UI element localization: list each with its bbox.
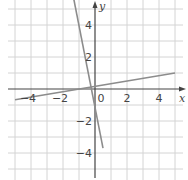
y-axis-arrow-icon	[93, 1, 98, 8]
y-axis-label: y	[98, 0, 106, 13]
x-tick-label: −4	[20, 92, 36, 105]
x-tick-label: 0	[98, 92, 105, 105]
x-axis-arrow-icon	[179, 87, 186, 92]
y-tick-label: 4	[85, 19, 92, 32]
x-tick-label: −2	[52, 92, 68, 105]
x-tick-label: 2	[124, 92, 131, 105]
x-axis-label: x	[179, 92, 186, 105]
y-tick-label: 2	[85, 51, 92, 64]
coordinate-graph: −4−202442−2−4 x y	[0, 0, 188, 180]
y-tick-label: −4	[76, 147, 92, 160]
x-tick-label: 4	[156, 92, 163, 105]
y-tick-label: −2	[76, 115, 92, 128]
